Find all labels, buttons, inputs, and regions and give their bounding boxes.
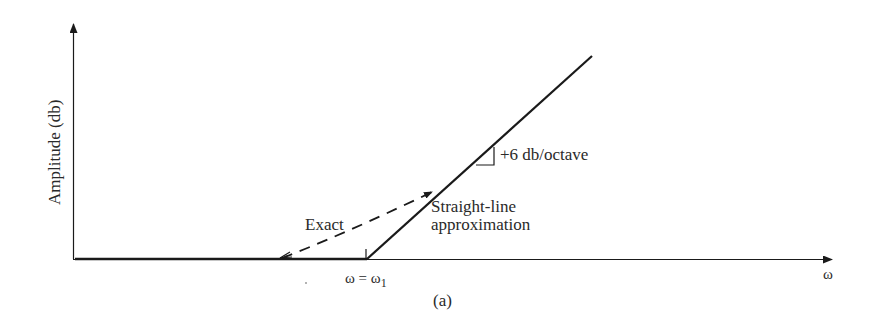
break-frequency-subscript: 1 bbox=[381, 276, 387, 290]
scan-speck bbox=[305, 282, 307, 284]
approx-label-line1: Straight-line bbox=[431, 197, 516, 216]
panel-label: (a) bbox=[433, 291, 452, 310]
y-axis-label: Amplitude (db) bbox=[45, 100, 64, 205]
slope-annotation: +6 db/octave bbox=[500, 145, 588, 164]
exact-label: Exact bbox=[305, 215, 344, 234]
bode-amplitude-diagram: Amplitude (db) ω +6 db/octave Straight-l… bbox=[0, 0, 877, 328]
slope-triangle-icon bbox=[476, 147, 494, 165]
break-frequency-label: ω = ω1 bbox=[345, 270, 387, 290]
approx-label-line2: approximation bbox=[431, 215, 531, 234]
x-axis-label: ω bbox=[823, 266, 833, 282]
break-frequency-main: ω = ω bbox=[345, 270, 381, 286]
